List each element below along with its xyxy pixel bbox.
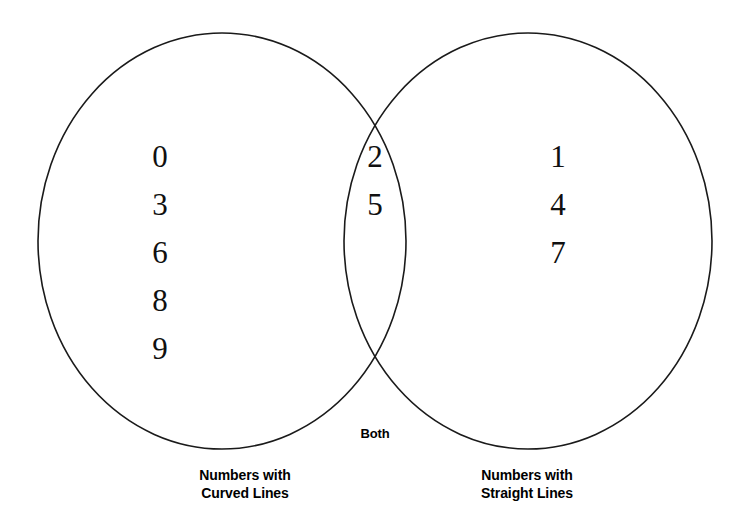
- list-item: 7: [550, 228, 566, 276]
- intersection-label: Both: [330, 425, 420, 443]
- list-item: 3: [152, 180, 168, 228]
- venn-diagram-page: 0 3 6 8 9 2 5 1 4 7 Both Numbers with Cu…: [0, 0, 745, 528]
- list-item: 6: [152, 228, 168, 276]
- list-item: 5: [367, 180, 383, 228]
- right-set-members: 1 4 7: [528, 132, 588, 276]
- venn-diagram-canvas: [0, 0, 745, 528]
- right-set-label-line1: Numbers with: [432, 466, 622, 484]
- right-set-label: Numbers with Straight Lines: [432, 466, 622, 502]
- left-set-members: 0 3 6 8 9: [130, 132, 190, 372]
- list-item: 8: [152, 276, 168, 324]
- list-item: 1: [550, 132, 566, 180]
- right-set-label-line2: Straight Lines: [432, 484, 622, 502]
- left-set-circle[interactable]: [38, 33, 406, 449]
- left-set-label-line1: Numbers with: [150, 466, 340, 484]
- list-item: 0: [152, 132, 168, 180]
- list-item: 4: [550, 180, 566, 228]
- list-item: 2: [367, 132, 383, 180]
- list-item: 9: [152, 324, 168, 372]
- left-set-label: Numbers with Curved Lines: [150, 466, 340, 502]
- left-set-label-line2: Curved Lines: [150, 484, 340, 502]
- intersection-members: 2 5: [345, 132, 405, 228]
